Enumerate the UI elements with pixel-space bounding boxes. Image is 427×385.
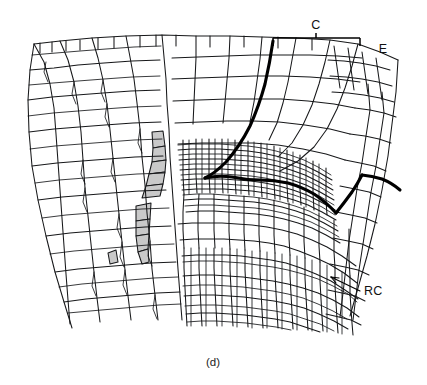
label-root-cap: RC <box>364 284 383 298</box>
figure-caption: (d) <box>206 356 220 368</box>
figure-root-apex: C E RC (d) <box>0 0 427 385</box>
root-apex-illustration: C E RC (d) <box>0 0 427 385</box>
label-cortex: C <box>311 18 320 32</box>
label-epidermis: E <box>379 42 388 56</box>
